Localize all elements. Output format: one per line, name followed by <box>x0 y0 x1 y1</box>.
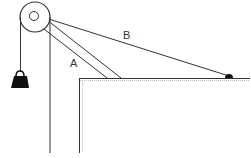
label-b: B <box>123 30 130 41</box>
wall <box>79 78 250 153</box>
diagram-canvas <box>0 0 251 158</box>
weight <box>11 71 29 88</box>
pulley <box>20 2 50 32</box>
label-a: A <box>70 58 77 69</box>
